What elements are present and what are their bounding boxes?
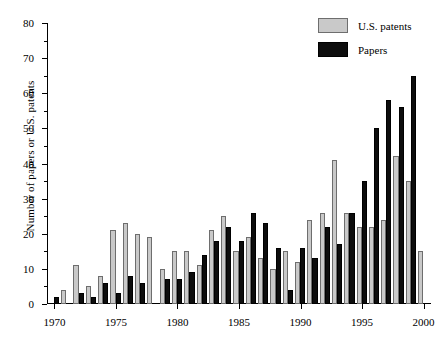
bar-papers-1986 bbox=[251, 213, 256, 304]
bar-papers-1991 bbox=[312, 258, 317, 304]
y-tick-0: 0 bbox=[42, 304, 47, 305]
x-tick-label-2000: 2000 bbox=[413, 316, 435, 328]
bar-papers-1979 bbox=[165, 279, 170, 304]
bar-u-s-patents-1978 bbox=[147, 237, 152, 304]
legend-label-patents: U.S. patents bbox=[358, 20, 411, 32]
bar-papers-1987 bbox=[263, 223, 268, 304]
x-tick-label-1990: 1990 bbox=[290, 316, 312, 328]
chart-legend: U.S. patentsPapers bbox=[318, 18, 411, 66]
x-tick-label-1970: 1970 bbox=[43, 316, 65, 328]
bar-papers-1995 bbox=[362, 181, 367, 304]
bar-chart: Number of papers or U.S. patents 0102030… bbox=[0, 0, 443, 340]
x-tick-label-1980: 1980 bbox=[166, 316, 188, 328]
y-tick-label-10: 10 bbox=[23, 263, 34, 275]
bar-papers-1998 bbox=[399, 107, 404, 304]
x-tick-1995: 1995 bbox=[362, 304, 363, 309]
bar-papers-1975 bbox=[116, 293, 121, 304]
bar-papers-1982 bbox=[202, 255, 207, 304]
bar-u-s-patents-2000 bbox=[418, 251, 423, 304]
bar-papers-1999 bbox=[411, 76, 416, 304]
bar-papers-1970 bbox=[54, 297, 59, 304]
y-tick-label-30: 30 bbox=[23, 193, 34, 205]
bar-papers-1988 bbox=[276, 248, 281, 304]
x-tick-1990: 1990 bbox=[301, 304, 302, 309]
bar-papers-1983 bbox=[214, 241, 219, 304]
legend-label-papers: Papers bbox=[358, 44, 387, 56]
bar-papers-1992 bbox=[325, 227, 330, 304]
y-tick-label-40: 40 bbox=[23, 158, 34, 170]
bar-papers-1984 bbox=[226, 227, 231, 304]
bar-papers-1976 bbox=[128, 276, 133, 304]
bar-papers-1985 bbox=[239, 241, 244, 304]
x-tick-label-1985: 1985 bbox=[228, 316, 250, 328]
x-tick-1970: 1970 bbox=[54, 304, 55, 309]
y-tick-label-70: 70 bbox=[23, 52, 34, 64]
bar-papers-1973 bbox=[91, 297, 96, 304]
y-tick-label-50: 50 bbox=[23, 122, 34, 134]
bar-papers-1996 bbox=[374, 128, 379, 304]
legend-swatch-patents bbox=[318, 18, 348, 33]
bar-u-s-patents-1971 bbox=[61, 290, 66, 304]
y-tick-label-20: 20 bbox=[23, 228, 34, 240]
y-tick-label-60: 60 bbox=[23, 87, 34, 99]
legend-swatch-papers bbox=[318, 42, 348, 57]
x-tick-1985: 1985 bbox=[239, 304, 240, 309]
bar-papers-1977 bbox=[140, 283, 145, 304]
legend-item-patents: U.S. patents bbox=[318, 18, 411, 33]
bar-papers-1974 bbox=[103, 283, 108, 304]
bar-papers-1994 bbox=[349, 213, 354, 304]
bar-papers-1972 bbox=[79, 293, 84, 304]
y-axis-label: Number of papers or U.S. patents bbox=[24, 36, 36, 276]
bar-papers-1980 bbox=[177, 279, 182, 304]
x-tick-label-1975: 1975 bbox=[105, 316, 127, 328]
bar-papers-1981 bbox=[189, 272, 194, 304]
x-tick-2000: 2000 bbox=[424, 304, 425, 309]
bar-papers-1997 bbox=[386, 100, 391, 304]
bar-papers-1990 bbox=[300, 248, 305, 304]
y-tick-label-80: 80 bbox=[23, 17, 34, 29]
bar-papers-1989 bbox=[288, 290, 293, 304]
y-tick-label-0: 0 bbox=[29, 298, 35, 310]
x-tick-1980: 1980 bbox=[177, 304, 178, 309]
legend-item-papers: Papers bbox=[318, 42, 411, 57]
x-tick-1975: 1975 bbox=[116, 304, 117, 309]
x-tick-label-1995: 1995 bbox=[351, 316, 373, 328]
bar-papers-1993 bbox=[337, 244, 342, 304]
